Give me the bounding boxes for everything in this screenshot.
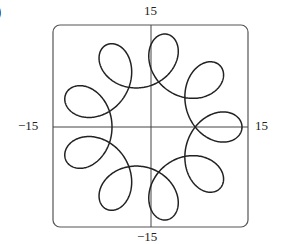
y-min-tick-label: −15 xyxy=(137,229,157,244)
parametric-plot xyxy=(0,0,281,244)
x-max-tick-label: 15 xyxy=(255,118,268,134)
y-max-tick-label: 15 xyxy=(144,3,157,19)
x-min-tick-label: −15 xyxy=(18,118,38,134)
